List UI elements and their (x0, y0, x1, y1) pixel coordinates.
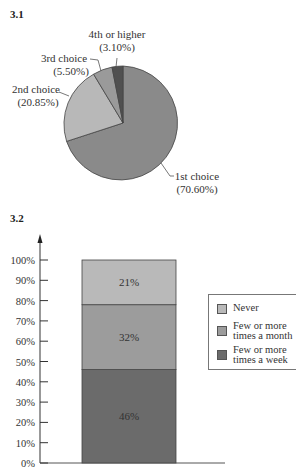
y-tick-0: 0% (21, 458, 35, 468)
y-tick-80: 80% (16, 296, 36, 307)
y-tick-40: 40% (16, 377, 36, 388)
label-3rd-choice: 3rd choice (41, 52, 87, 64)
y-tick-10: 10% (16, 438, 36, 449)
y-tick-30: 30% (16, 397, 36, 408)
legend-swatch-month (217, 326, 227, 336)
legend-item-week: Few or more times a week (217, 345, 288, 365)
legend-swatch-week (217, 350, 227, 360)
pct-1st-choice: (70.60%) (176, 183, 218, 196)
legend-label-month-2: times a month (233, 331, 293, 341)
y-tick-70: 70% (16, 316, 36, 327)
bar-chart-heading: 3.2 (10, 212, 24, 224)
bar-label-never: 21% (119, 276, 139, 288)
y-tick-20: 20% (16, 417, 36, 428)
pct-4th-or-higher: (3.10%) (99, 41, 135, 54)
legend-item-month: Few or more times a month (217, 321, 293, 341)
y-tick-100: 100% (11, 255, 36, 266)
legend-label-never: Never (233, 303, 259, 313)
label-4th-or-higher: 4th or higher (89, 28, 146, 40)
pct-2nd-choice: (20.85%) (17, 96, 59, 109)
bar-label-month: 32% (119, 331, 139, 343)
legend-item-never: Never (217, 303, 259, 314)
y-tick-50: 50% (16, 357, 36, 368)
stacked-bar-chart: 0% 10% 20% 30% 40% 50% 60% 70% 80% 90% 1… (11, 234, 226, 468)
label-2nd-choice: 2nd choice (12, 83, 60, 95)
pct-3rd-choice: (5.50%) (53, 65, 89, 78)
label-1st-choice: 1st choice (175, 170, 219, 182)
charts-canvas: 4th or higher (3.10%) 3rd choice (5.50%)… (0, 0, 296, 468)
legend-label-week-2: times a week (233, 355, 288, 365)
y-axis-arrow-icon (38, 234, 43, 243)
bar-chart-legend: Never Few or more times a month Few or m… (208, 294, 296, 370)
y-tick-60: 60% (16, 336, 36, 347)
legend-swatch-never (217, 304, 227, 314)
bar-label-week: 46% (119, 410, 139, 422)
pie-chart: 4th or higher (3.10%) 3rd choice (5.50%)… (12, 28, 219, 196)
y-tick-90: 90% (16, 275, 36, 286)
